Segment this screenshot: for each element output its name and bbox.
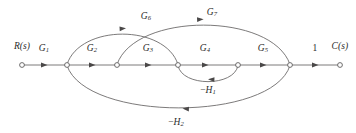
edge-label-g4: G4: [200, 43, 210, 53]
edge-label-g6: G6: [141, 11, 151, 21]
edge-label-g7: G7: [207, 7, 217, 17]
signal-flow-graph-figure: R(s) C(s) G1 G2 G3 G4 G5 1 G6 G7 −H1 −H2: [0, 0, 356, 133]
arrow-g1: [41, 62, 48, 67]
edge-label-g1: G1: [39, 43, 49, 53]
arrow-g4: [202, 62, 209, 67]
arrow-g7: [197, 17, 204, 22]
node-label-input: R(s): [14, 41, 30, 51]
edge-g6-arc: [67, 34, 178, 64]
node-label-output: C(s): [332, 41, 349, 51]
arrow-one: [312, 62, 319, 67]
node-4[interactable]: [236, 63, 241, 68]
arrow-g6: [120, 27, 127, 32]
arrow-g2: [89, 62, 96, 67]
edge-label-g3: G3: [143, 43, 153, 53]
edge-label-h2: −H2: [168, 117, 184, 127]
arrow-g5: [260, 62, 267, 67]
node-5[interactable]: [288, 63, 293, 68]
edge-h2-arc: [67, 66, 290, 108]
node-3[interactable]: [176, 63, 181, 68]
edge-label-one: 1: [313, 43, 318, 53]
edge-label-h1: −H1: [200, 85, 216, 95]
edge-label-g2: G2: [87, 43, 97, 53]
node-r[interactable]: [20, 63, 25, 68]
edge-label-g5: G5: [258, 43, 268, 53]
edge-h1-arc: [178, 66, 238, 82]
graph-canvas: [0, 0, 356, 133]
node-c[interactable]: [338, 63, 343, 68]
arrow-g3: [145, 62, 152, 67]
node-2[interactable]: [115, 63, 120, 68]
node-1[interactable]: [65, 63, 70, 68]
